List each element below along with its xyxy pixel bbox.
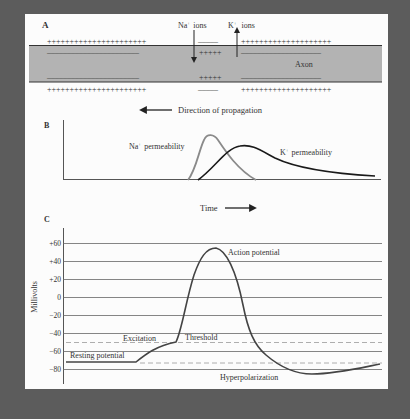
outer-plus-left-top: ++++++++++++++++++++++ — [47, 37, 147, 46]
outer-plus-right-bottom: ++++++++++++++++++++ — [241, 85, 332, 94]
outer-minus-mid-top: ––––– — [197, 37, 219, 46]
svg-text:+40: +40 — [49, 257, 61, 266]
figure-svg: A ++++++++++++++++++++++ –––––––––––––––… — [0, 0, 410, 419]
inner-plus-mid-top: +++++ — [199, 48, 222, 57]
inner-minus-left-bottom: ––––––––––––––––––––––– — [46, 73, 140, 82]
axon-label: Axon — [295, 60, 313, 69]
svg-text:−60: −60 — [49, 347, 61, 356]
c-tick-labels: +60 +40 +20 0 −20 −40 −60 −80 — [49, 239, 61, 374]
threshold-label: Threshold — [185, 333, 217, 342]
inner-minus-right-bottom: –––––––––––––––––––– — [240, 73, 322, 82]
outer-plus-right-top: ++++++++++++++++++++ — [241, 37, 332, 46]
svg-text:+60: +60 — [49, 239, 61, 248]
resting-potential-label: Resting potential — [70, 351, 125, 360]
panel-a-label: A — [42, 20, 49, 30]
k-ions-label: K+ions — [228, 21, 255, 30]
time-label: Time — [200, 203, 218, 213]
svg-text:−80: −80 — [49, 365, 61, 374]
panel-b-label: B — [44, 121, 50, 130]
outer-plus-left-bottom: ++++++++++++++++++++++ — [47, 85, 147, 94]
inner-minus-right-top: –––––––––––––––––––– — [240, 48, 322, 57]
panel-c: C +60 +40 +20 0 −20 −40 −60 −80 Millivol — [30, 215, 382, 384]
c-y-axis-label: Millivolts — [30, 281, 39, 313]
panel-c-label: C — [44, 215, 50, 224]
k-permeability-label: K+permeability — [280, 148, 332, 157]
outer-minus-mid-bottom: ––––– — [197, 85, 219, 94]
svg-text:−20: −20 — [49, 311, 61, 320]
inner-plus-mid-bottom: +++++ — [199, 73, 222, 82]
svg-text:0: 0 — [57, 293, 61, 302]
hyperpolarization-label: Hyperpolarization — [220, 373, 278, 382]
na-permeability-label: Na+permeability — [129, 142, 185, 151]
panel-b: B Na+permeability K+permeability Time — [44, 120, 381, 213]
direction-label: Direction of propagation — [178, 105, 263, 115]
svg-text:+20: +20 — [49, 275, 61, 284]
na-ions-label: Na+ions — [178, 21, 207, 30]
svg-text:−40: −40 — [49, 329, 61, 338]
panel-a: A ++++++++++++++++++++++ –––––––––––––––… — [29, 20, 382, 115]
inner-minus-left-top: ––––––––––––––––––––––– — [46, 48, 140, 57]
excitation-label: Excitation — [123, 334, 156, 343]
action-potential-label: Action potential — [228, 248, 281, 257]
